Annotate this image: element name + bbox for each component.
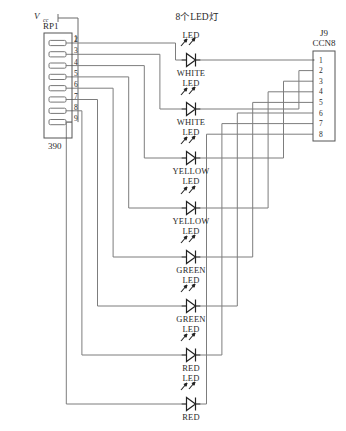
rp-pin-label-9: 9 [74,114,78,123]
wire-rp-pin2-to-led1 [72,43,182,60]
led-color-label-7: RED [182,363,200,373]
led-symbol-8 [181,382,201,411]
rp-pin-label-3: 3 [74,46,78,55]
j9-pin-label-5: 5 [319,98,323,107]
led-color-label-6: GREEN [176,314,205,324]
pack-resistor-8 [49,120,66,125]
connector-ref: J9 [320,28,329,38]
led-symbol-3 [181,136,201,165]
led-triangle-4 [187,202,196,215]
j9-pin-label-8: 8 [319,130,323,139]
diagram-title: 8个LED灯 [175,12,218,22]
led-symbol-2 [181,87,201,116]
j9-pin-label-6: 6 [319,109,323,118]
wire-rp-pin7-to-led6 [72,100,182,307]
wire-rp-pin8-to-led7 [72,111,182,355]
rp-pin-label-7: 7 [74,92,78,101]
pack-resistor-1 [49,40,66,45]
j9-pin-label-4: 4 [319,87,323,96]
led-designator-6: LED [182,275,199,285]
j9-pin-label-2: 2 [319,66,323,75]
led-color-label-4: YELLOW [172,216,209,226]
led-symbol-4 [181,186,201,215]
wire-j9-pin2-to-led2 [201,71,314,109]
wire-rp-pin9-to-led8 [66,122,181,404]
led-triangle-3 [187,152,196,165]
led-symbol-1 [181,38,201,67]
label-layer: 8个LED灯VccRP1390123456789J9CCN812345678WH… [34,11,336,422]
led-color-label-5: GREEN [176,265,205,275]
wire-j9-pin6-to-led6 [201,113,314,306]
led-color-label-1: WHITE [177,68,205,78]
j9-pin-label-7: 7 [319,119,323,128]
pack-resistor-6 [49,97,66,102]
pack-resistor-4 [49,74,66,79]
led-triangle-6 [187,300,196,313]
circuit-schematic: 8个LED灯VccRP1390123456789J9CCN812345678WH… [0,0,346,431]
rp-pin-label-5: 5 [74,69,78,78]
wire-rp-pin4-to-led3 [72,66,182,158]
pack-resistor-5 [49,86,66,91]
supply-voltage-label: V [34,11,41,21]
wire-j9-pin8-to-led8 [201,134,314,404]
pack-resistor-7 [49,108,66,113]
wire-rp-pin5-to-led4 [72,77,182,208]
led-symbol-6 [181,284,201,313]
led-designator-4: LED [182,176,199,186]
j9-pin-label-3: 3 [319,77,323,86]
wire-j9-pin5-to-led5 [201,102,314,257]
wire-j9-pin3-to-led3 [201,81,314,158]
pack-resistor-3 [49,63,66,68]
pack-resistor-2 [49,52,66,57]
led-color-label-3: YELLOW [172,166,209,176]
rp-pin-label-4: 4 [74,58,78,67]
led-designator-7: LED [182,324,199,334]
resistor-pack-ref: RP1 [43,21,59,31]
led-triangle-2 [187,103,196,116]
led-designator-3: LED [182,127,199,137]
led-designator-8: LED [182,373,199,383]
led-symbol-7 [181,333,201,362]
resistor-pack-value: 390 [48,141,62,151]
rp-pin-label-2: 2 [74,35,78,44]
led-designator-5: LED [182,226,199,236]
led-designator-1: LED [182,30,199,40]
connector-type: CCN8 [312,38,336,48]
wire-rp-pin6-to-led5 [72,88,182,257]
led-designator-2: LED [182,78,199,88]
wire-rp-pin3-to-led2 [72,54,182,109]
led-triangle-7 [187,349,196,362]
connector-body [313,51,335,141]
rp-pin-label-6: 6 [74,80,78,89]
rp-pin-label-8: 8 [74,103,78,112]
led-symbol-5 [181,235,201,264]
led-color-label-8: RED [182,412,200,422]
led-triangle-8 [187,398,196,411]
led-triangle-5 [187,251,196,264]
vcc-to-pin1-wire [58,18,78,33]
j9-pin-label-1: 1 [319,56,323,65]
led-triangle-1 [187,54,196,67]
led-color-label-2: WHITE [177,117,205,127]
